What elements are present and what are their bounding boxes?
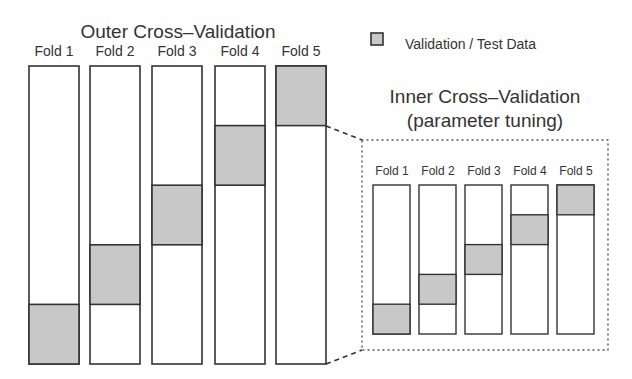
connector-bottom-dashed-line: [326, 350, 362, 364]
fold-bar: [29, 66, 79, 364]
fold-bar: [465, 185, 502, 334]
test-data-segment: [465, 245, 502, 275]
fold-bar: [419, 185, 456, 334]
test-data-segment: [373, 304, 410, 334]
inner-fold-label: Fold 4: [513, 164, 547, 178]
test-data-segment: [276, 66, 326, 126]
fold-bar: [511, 185, 548, 334]
test-data-segment: [215, 126, 265, 186]
training-data-segment: [511, 185, 548, 334]
fold-bar: [557, 185, 594, 334]
fold-bar: [90, 66, 140, 364]
test-data-segment: [152, 185, 202, 245]
outer-fold-label: Fold 3: [158, 43, 197, 59]
outer-fold-bars: [29, 66, 326, 364]
outer-fold-label: Fold 4: [221, 43, 260, 59]
inner-fold-label: Fold 1: [375, 164, 409, 178]
inner-fold-label: Fold 5: [559, 164, 593, 178]
outer-fold-labels: Fold 1 Fold 2 Fold 3 Fold 4 Fold 5: [35, 43, 321, 59]
inner-cv-title: Inner Cross–Validation: [390, 86, 581, 107]
fold-bar: [276, 66, 326, 364]
inner-fold-label: Fold 2: [421, 164, 455, 178]
inner-cv-subtitle: (parameter tuning): [407, 110, 563, 131]
test-data-segment: [511, 215, 548, 245]
test-data-segment: [557, 185, 594, 215]
legend-swatch-icon: [371, 33, 383, 45]
outer-fold-label: Fold 2: [96, 43, 135, 59]
connector-top-dashed-line: [326, 126, 362, 140]
nested-cv-diagram: Outer Cross–Validation Fold 1 Fold 2 Fol…: [0, 0, 632, 379]
fold-bar: [373, 185, 410, 334]
training-data-segment: [90, 66, 140, 364]
outer-cv-title: Outer Cross–Validation: [80, 21, 275, 42]
fold-bar: [152, 66, 202, 364]
outer-fold-label: Fold 5: [282, 43, 321, 59]
test-data-segment: [419, 274, 456, 304]
fold-bar: [215, 66, 265, 364]
inner-fold-bars: [373, 185, 594, 334]
outer-fold-label: Fold 1: [35, 43, 74, 59]
test-data-segment: [90, 245, 140, 305]
training-data-segment: [419, 185, 456, 334]
inner-fold-label: Fold 3: [467, 164, 501, 178]
test-data-segment: [29, 304, 79, 364]
training-data-segment: [215, 66, 265, 364]
legend-label: Validation / Test Data: [405, 36, 536, 52]
inner-fold-labels: Fold 1 Fold 2 Fold 3 Fold 4 Fold 5: [375, 164, 593, 178]
